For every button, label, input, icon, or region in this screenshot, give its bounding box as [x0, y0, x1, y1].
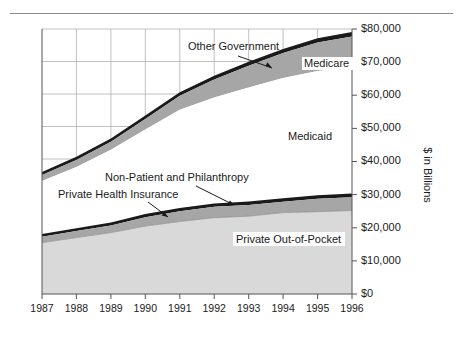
series-label-non-patient-philanthropy: Non-Patient and Philanthropy	[105, 171, 249, 183]
x-tick-labels: 1987 1988 1989 1990 1991 1992 1993 1994 …	[30, 302, 364, 314]
x-tick-label: 1995	[306, 302, 330, 314]
y-tick-label: $50,000	[361, 121, 401, 133]
y-tick-label: $10,000	[361, 254, 401, 266]
stacked-area-chart: $80,000 $70,000 $60,000 $50,000 $40,000 …	[0, 0, 463, 343]
x-tick-label: 1990	[134, 302, 158, 314]
x-tick-label: 1993	[237, 302, 261, 314]
chart-figure: $80,000 $70,000 $60,000 $50,000 $40,000 …	[0, 0, 463, 343]
x-tick-label: 1989	[99, 302, 123, 314]
y-axis-title: $ in Billions	[422, 147, 434, 203]
y-tick-label: $40,000	[361, 154, 401, 166]
x-tick-marks	[42, 294, 352, 299]
series-label-medicare: Medicare	[304, 57, 349, 69]
y-tick-label: $30,000	[361, 188, 401, 200]
y-tick-label: $70,000	[361, 55, 401, 67]
series-label-other-government: Other Government	[188, 40, 279, 52]
y-tick-label: $20,000	[361, 221, 401, 233]
x-tick-label: 1992	[203, 302, 227, 314]
y-tick-label: $80,000	[361, 22, 401, 34]
series-label-private-health-insurance: Private Health Insurance	[58, 188, 178, 200]
y-tick-labels: $80,000 $70,000 $60,000 $50,000 $40,000 …	[361, 22, 401, 299]
x-tick-label: 1994	[271, 302, 295, 314]
x-tick-label: 1988	[65, 302, 89, 314]
y-tick-label: $0	[361, 287, 373, 299]
series-label-private-out-of-pocket: Private Out-of-Pocket	[236, 233, 341, 245]
series-label-medicaid: Medicaid	[288, 130, 332, 142]
x-tick-label: 1987	[30, 302, 54, 314]
x-tick-label: 1991	[168, 302, 192, 314]
y-tick-label: $60,000	[361, 88, 401, 100]
x-tick-label: 1996	[340, 302, 364, 314]
